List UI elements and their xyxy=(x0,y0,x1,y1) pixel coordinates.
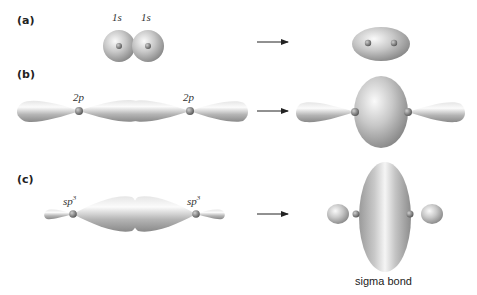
orbital-label-2p-right: 2p xyxy=(183,91,194,103)
orbital-label-sp3-right: sp3 xyxy=(187,194,200,207)
panel-a-product xyxy=(352,27,410,61)
orbital-label-sp3-left: sp3 xyxy=(63,194,76,207)
orbital-overlap-diagram: (a) (b) (c) 1s 1s 2p 2p sp3 sp3 sigma bo… xyxy=(0,0,477,295)
panel-label-a: (a) xyxy=(17,14,34,27)
panel-b-product xyxy=(296,76,465,148)
panel-label-b: (b) xyxy=(17,68,35,81)
orbital-label-1s-left: 1s xyxy=(112,11,122,23)
panel-a-reactants xyxy=(103,30,164,62)
panel-c-product xyxy=(327,162,443,272)
orbital-label-2p-left: 2p xyxy=(73,91,84,103)
diagram-graphics xyxy=(0,0,477,295)
sigma-bond-caption: sigma bond xyxy=(355,275,412,287)
panel-label-c: (c) xyxy=(17,173,34,186)
orbital-label-1s-right: 1s xyxy=(141,11,151,23)
panel-b-reactants xyxy=(17,100,248,122)
